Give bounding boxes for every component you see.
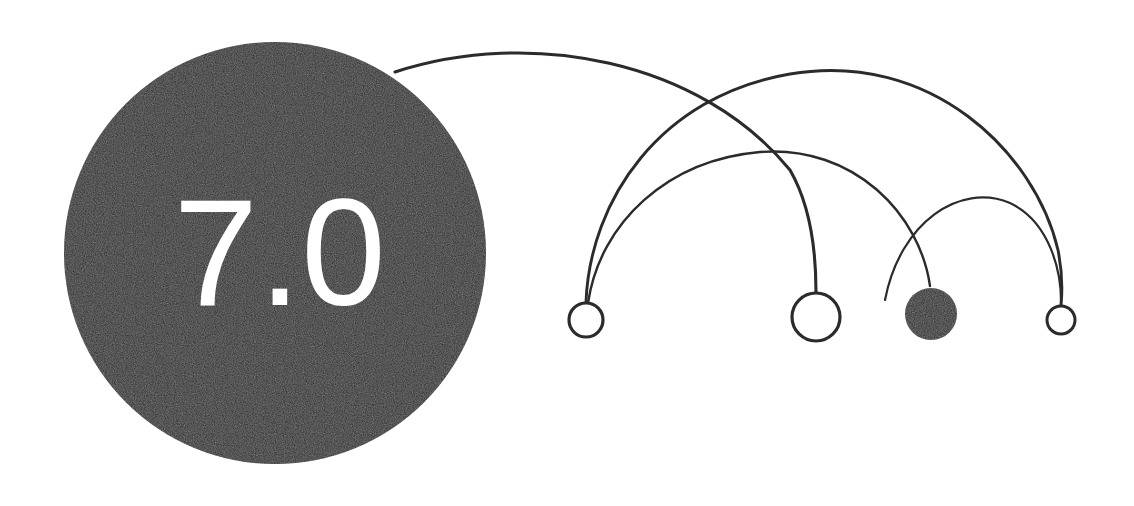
satellite-node-3[interactable] (905, 288, 957, 340)
satellite-node-2[interactable] (792, 293, 840, 341)
diagram-canvas: 7.0 (0, 0, 1134, 506)
arc-network-diagram: 7.0 (0, 0, 1134, 506)
primary-node-label: 7.0 (174, 167, 387, 337)
primary-hub-node[interactable]: 7.0 (64, 42, 486, 464)
satellite-node-4[interactable] (1047, 306, 1075, 334)
satellite-node-1[interactable] (569, 303, 603, 337)
